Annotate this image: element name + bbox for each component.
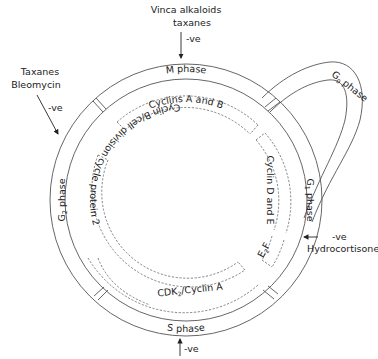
inhibitor-hydrocortisone: -ve Hydrocortisone (304, 231, 378, 254)
g2-phase-label: G2 phase (56, 178, 69, 221)
svg-text:-ve: -ve (48, 102, 63, 113)
svg-text:Taxanes: Taxanes (20, 66, 59, 77)
svg-text:taxanes: taxanes (173, 17, 211, 28)
s-phase-label: S phase (167, 322, 206, 334)
svg-text:Hydrocortisone: Hydrocortisone (307, 243, 378, 254)
svg-text:-ve: -ve (184, 343, 199, 354)
cell-cycle-diagram: M phase S phase G2 phase G1 phase G0 pha… (0, 0, 378, 359)
arrow-diagonal-icon (37, 95, 58, 134)
e2f-label: E2F (255, 240, 273, 259)
inhibitor-vinca: Vinca alkaloids taxanes -ve (151, 4, 222, 58)
regulator-bands (88, 96, 291, 313)
svg-text:Bleomycin: Bleomycin (11, 79, 61, 90)
svg-text:-ve: -ve (332, 231, 347, 242)
svg-text:-ve: -ve (186, 33, 201, 44)
cyclin-b-cdc2-label: Cyclin B/cell division cycle protein 2 (88, 102, 181, 226)
inhibitor-taxanes-bleomycin: Taxanes Bleomycin -ve (11, 66, 63, 134)
svg-text:Vinca alkaloids: Vinca alkaloids (151, 4, 222, 15)
inhibitor-s-phase: -ve (180, 339, 199, 356)
separator (93, 101, 103, 112)
g0-phase-label: G0 phase (329, 69, 370, 105)
cyclin-d-e-label: Cyclin D and E (265, 155, 276, 224)
cdk2-cyclin-a-label: CDK2/Cyclin A (157, 281, 224, 300)
